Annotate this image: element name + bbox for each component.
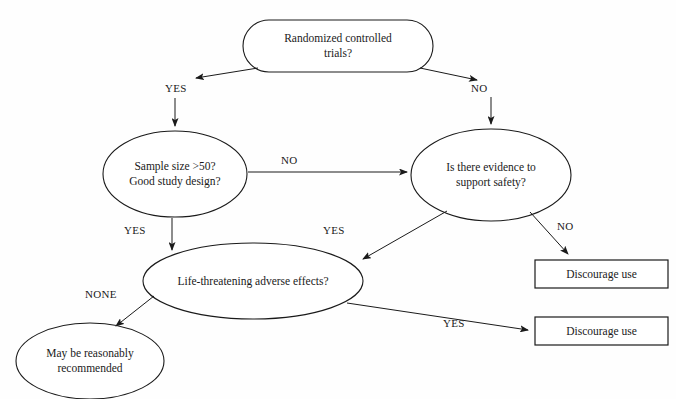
edge-label-sample-no: NO — [281, 154, 298, 166]
node-rct-shape[interactable] — [243, 20, 433, 72]
flowchart-graphics — [0, 0, 676, 399]
edge-label-rct-yes: YES — [165, 82, 187, 94]
node-recommend-shape[interactable] — [16, 323, 164, 399]
edge-label-rct-no: NO — [471, 82, 488, 94]
edge-evidence-no — [530, 212, 568, 254]
edge-label-life-none: NONE — [85, 288, 117, 300]
node-evidence-safety-shape[interactable] — [411, 129, 571, 221]
edge-life-yes — [347, 303, 528, 330]
edge-rct-no-diagonal — [420, 68, 477, 80]
node-sample-size-shape[interactable] — [103, 131, 247, 217]
edge-label-life-yes: YES — [443, 317, 465, 329]
node-discourage-1-shape[interactable] — [535, 260, 668, 288]
edge-life-none — [116, 296, 154, 326]
edge-evidence-yes — [363, 211, 447, 259]
edge-rct-yes-diagonal — [196, 68, 258, 78]
flowchart-canvas: Randomized controlled trials? Sample siz… — [0, 0, 676, 399]
node-discourage-2-shape[interactable] — [535, 317, 668, 345]
node-life-threatening-shape[interactable] — [143, 243, 363, 319]
edge-label-sample-yes: YES — [124, 224, 146, 236]
edge-label-evidence-no: NO — [557, 220, 574, 232]
edge-label-evidence-yes: YES — [323, 224, 345, 236]
